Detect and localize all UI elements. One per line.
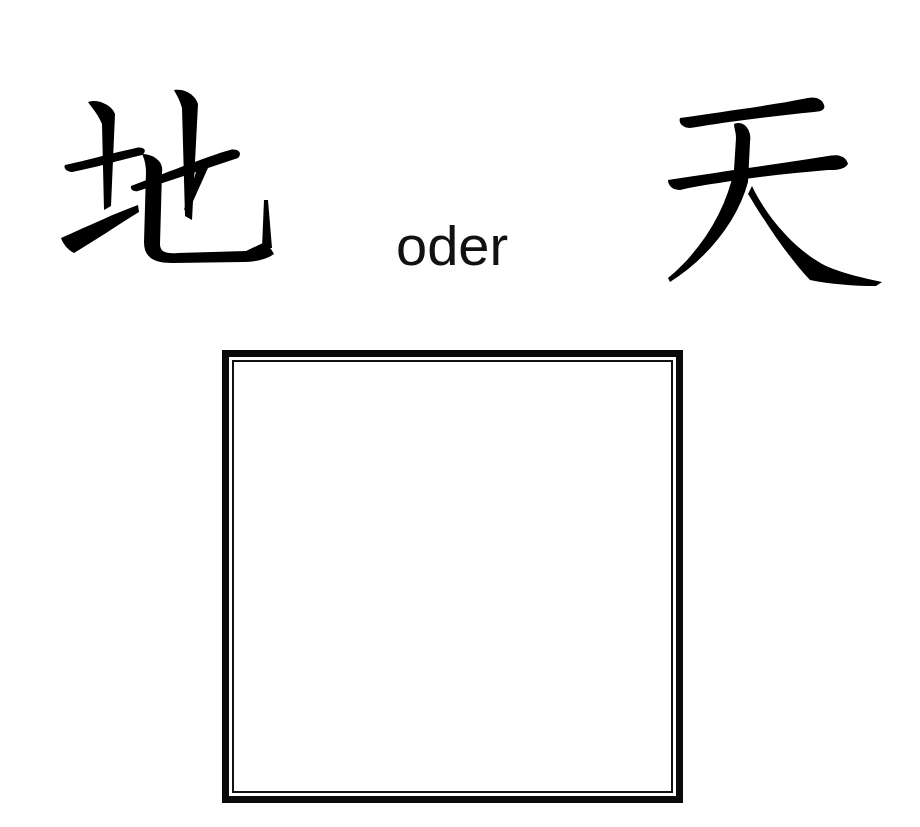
connector-word: oder	[396, 218, 508, 274]
character-di-earth	[58, 88, 283, 263]
character-tian-heaven	[668, 90, 888, 290]
answer-box[interactable]	[222, 350, 683, 803]
answer-box-inner-border	[232, 360, 673, 793]
